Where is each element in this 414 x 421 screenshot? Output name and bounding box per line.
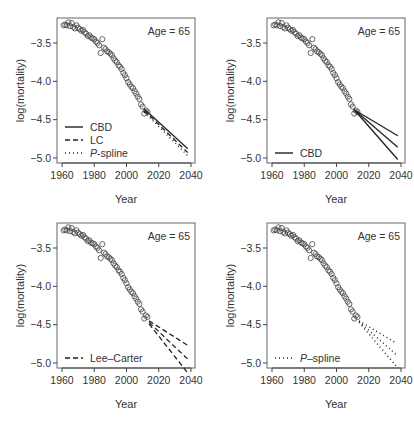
legend-label: CBD (90, 121, 113, 133)
legend: CBDLCP-spline (65, 121, 128, 159)
observed-point (308, 50, 313, 55)
forecast-line (149, 322, 188, 359)
x-tick-label: 1980 (293, 169, 317, 181)
x-tick-label: 1980 (293, 374, 317, 386)
y-tick-label: −4.0 (240, 75, 261, 87)
x-axis-label: Year (115, 398, 138, 410)
panel-bottom-right: 19601980200020202040−3.5−4.0−4.5−5.0Year… (224, 223, 413, 410)
observed-point (310, 242, 315, 247)
age-annotation: Age = 65 (148, 25, 190, 37)
x-tick-label: 2020 (147, 374, 171, 386)
x-tick-label: 1960 (260, 374, 284, 386)
y-tick-label: −4.5 (240, 113, 261, 125)
forecast-line (354, 110, 398, 148)
forecast-line (359, 321, 396, 343)
x-axis-label: Year (325, 398, 348, 410)
y-tick-label: −4.5 (30, 318, 51, 330)
plot-frame (267, 223, 405, 368)
x-axis-label: Year (325, 193, 348, 205)
panel-top-left: 19601980200020202040−3.5−4.0−4.5−5.0Year… (14, 18, 203, 205)
forecast-line (144, 109, 188, 149)
legend: CBD (275, 147, 323, 159)
observed-point (100, 37, 105, 42)
panel-bottom-left: 19601980200020202040−3.5−4.0−4.5−5.0Year… (14, 223, 203, 410)
forecast-line (144, 112, 188, 156)
plot-frame (267, 18, 405, 163)
forecast-line (354, 110, 398, 136)
legend-label: P-spline (90, 147, 128, 159)
x-axis-label: Year (115, 193, 138, 205)
x-tick-label: 2020 (147, 169, 171, 181)
x-tick-label: 2000 (325, 169, 349, 181)
age-annotation: Age = 65 (358, 25, 400, 37)
x-tick-label: 2000 (115, 169, 139, 181)
y-tick-label: −3.5 (240, 242, 261, 254)
legend-label: Lee–Carter (90, 352, 143, 364)
x-tick-label: 2000 (115, 374, 139, 386)
x-tick-label: 2020 (357, 374, 381, 386)
x-tick-label: 1980 (83, 169, 107, 181)
observed-point (98, 50, 103, 55)
observed-point (100, 242, 105, 247)
age-annotation: Age = 65 (358, 230, 400, 242)
y-axis-label: log(mortality) (14, 59, 26, 123)
observed-point (308, 255, 313, 260)
x-tick-label: 2040 (179, 169, 203, 181)
y-tick-label: −4.0 (30, 75, 51, 87)
forecast-line (149, 321, 188, 346)
y-tick-label: −5.0 (30, 357, 51, 369)
legend-label: LC (90, 134, 104, 146)
x-tick-label: 1960 (50, 374, 74, 386)
forecast-line (354, 110, 398, 160)
age-annotation: Age = 65 (148, 230, 190, 242)
plot-frame (57, 18, 195, 163)
observed-point (98, 255, 103, 260)
y-axis-label: log(mortality) (14, 264, 26, 328)
x-tick-label: 2000 (325, 374, 349, 386)
y-tick-label: −3.5 (240, 37, 261, 49)
observed-point (352, 316, 357, 321)
panel-top-right: 19601980200020202040−3.5−4.0−4.5−5.0Year… (224, 18, 413, 205)
observed-point (310, 37, 315, 42)
legend: Lee–Carter (65, 352, 143, 364)
x-tick-label: 1960 (260, 169, 284, 181)
y-axis-label: log(mortality) (224, 264, 236, 328)
chart-canvas: 19601980200020202040−3.5−4.0−4.5−5.0Year… (0, 0, 414, 421)
x-tick-label: 1960 (50, 169, 74, 181)
y-tick-label: −5.0 (240, 152, 261, 164)
legend-label: CBD (300, 147, 323, 159)
legend-label: P–spline (300, 352, 340, 364)
x-tick-label: 2020 (357, 169, 381, 181)
forecast-line (359, 322, 396, 366)
y-tick-label: −3.5 (30, 37, 51, 49)
forecast-line (144, 110, 188, 152)
y-tick-label: −4.0 (240, 280, 261, 292)
y-tick-label: −4.5 (30, 113, 51, 125)
forecast-line (359, 322, 396, 355)
x-tick-label: 2040 (389, 169, 413, 181)
x-tick-label: 1980 (83, 374, 107, 386)
y-tick-label: −4.0 (30, 280, 51, 292)
y-tick-label: −5.0 (240, 357, 261, 369)
x-tick-label: 2040 (179, 374, 203, 386)
forecast-line (149, 324, 188, 373)
y-tick-label: −4.5 (240, 318, 261, 330)
x-tick-label: 2040 (389, 374, 413, 386)
legend: P–spline (275, 352, 340, 364)
observed-point (142, 316, 147, 321)
y-tick-label: −3.5 (30, 242, 51, 254)
y-tick-label: −5.0 (30, 152, 51, 164)
y-axis-label: log(mortality) (224, 59, 236, 123)
